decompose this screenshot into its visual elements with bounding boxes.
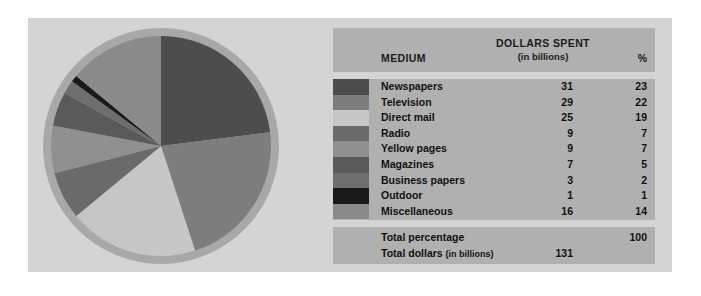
pie-chart <box>28 18 328 272</box>
row-value-dollars: 31 <box>503 80 573 92</box>
row-label-medium: Direct mail <box>381 111 435 123</box>
row-label-medium: Newspapers <box>381 80 443 92</box>
pie-slice <box>161 36 270 146</box>
legend-table: MEDIUM DOLLARS SPENT (in billions) % New… <box>333 28 655 264</box>
row-label-medium: Magazines <box>381 158 434 170</box>
row-value-percent: 7 <box>585 142 647 154</box>
table-row: Yellow pages97 <box>333 141 655 157</box>
table-totals: Total percentage 100 Total dollars (in b… <box>333 227 655 264</box>
table-row: Miscellaneous1614 <box>333 204 655 220</box>
row-value-dollars: 9 <box>503 142 573 154</box>
table-row: Outdoor11 <box>333 188 655 204</box>
legend-color-swatch <box>333 110 369 126</box>
row-value-percent: 19 <box>585 111 647 123</box>
row-value-dollars: 7 <box>503 158 573 170</box>
legend-color-swatch <box>333 141 369 157</box>
table-row: Newspapers3123 <box>333 79 655 95</box>
row-label-medium: Miscellaneous <box>381 205 453 217</box>
table-row: Radio97 <box>333 126 655 142</box>
row-label-medium: Yellow pages <box>381 142 447 154</box>
total-percentage-label: Total percentage <box>381 231 464 243</box>
total-dollars-value: 131 <box>503 247 573 259</box>
row-value-dollars: 9 <box>503 127 573 139</box>
table-header: MEDIUM DOLLARS SPENT (in billions) % <box>333 28 655 72</box>
total-dollars-label-text: Total dollars <box>381 247 443 259</box>
figure-panel: MEDIUM DOLLARS SPENT (in billions) % New… <box>28 18 672 272</box>
legend-color-swatch <box>333 79 369 95</box>
pie-slices <box>43 28 279 264</box>
row-value-dollars: 16 <box>503 205 573 217</box>
table-body: Newspapers3123Television2922Direct mail2… <box>333 79 655 220</box>
row-value-percent: 5 <box>585 158 647 170</box>
total-percentage-value: 100 <box>585 231 647 243</box>
legend-color-swatch <box>333 157 369 173</box>
total-dollars-label: Total dollars (in billions) <box>381 247 494 259</box>
row-value-percent: 1 <box>585 189 647 201</box>
row-value-dollars: 29 <box>503 96 573 108</box>
row-value-percent: 23 <box>585 80 647 92</box>
row-value-dollars: 25 <box>503 111 573 123</box>
row-label-medium: Business papers <box>381 174 465 186</box>
legend-color-swatch <box>333 173 369 189</box>
row-value-percent: 14 <box>585 205 647 217</box>
table-row: Business papers32 <box>333 173 655 189</box>
row-label-medium: Outdoor <box>381 189 422 201</box>
column-header-medium: MEDIUM <box>381 52 426 64</box>
row-value-percent: 7 <box>585 127 647 139</box>
table-row: Direct mail2519 <box>333 110 655 126</box>
table-row: Television2922 <box>333 95 655 111</box>
row-label-medium: Radio <box>381 127 410 139</box>
row-value-dollars: 1 <box>503 189 573 201</box>
table-row: Magazines75 <box>333 157 655 173</box>
row-label-medium: Television <box>381 96 432 108</box>
legend-color-swatch <box>333 188 369 204</box>
legend-color-swatch <box>333 204 369 220</box>
legend-color-swatch <box>333 95 369 111</box>
row-value-dollars: 3 <box>503 174 573 186</box>
row-value-percent: 22 <box>585 96 647 108</box>
row-value-percent: 2 <box>585 174 647 186</box>
column-header-dollars-spent: DOLLARS SPENT <box>473 37 613 49</box>
column-header-percent: % <box>585 52 647 64</box>
total-dollars-label-sub: (in billions) <box>446 249 494 259</box>
legend-color-swatch <box>333 126 369 142</box>
